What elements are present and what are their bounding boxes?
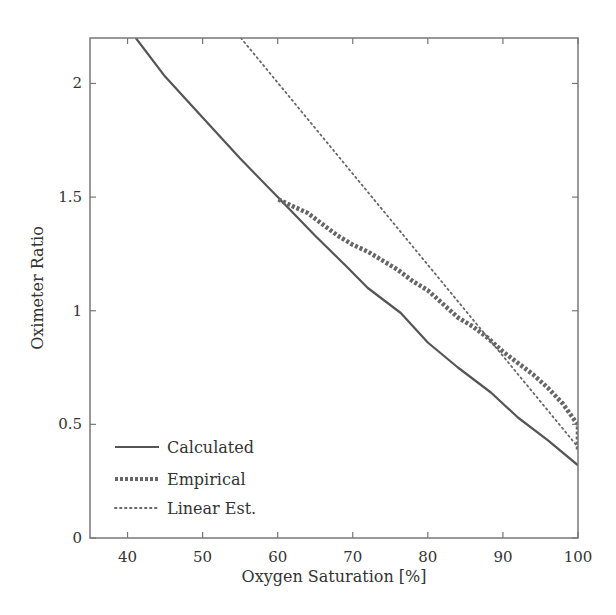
legend-label-linear: Linear Est. (167, 499, 256, 518)
y-tick-labels: 00.511.52 (58, 74, 82, 547)
plot-lines (136, 38, 578, 465)
x-tick-label: 80 (418, 548, 437, 566)
series-empirical (278, 199, 578, 449)
legend-label-calculated: Calculated (167, 438, 254, 457)
series-linear-est (241, 38, 578, 447)
chart: 405060708090100 00.511.52 Oxygen Saturat… (0, 0, 616, 615)
y-tick-label: 0 (72, 529, 82, 547)
x-tick-label: 40 (118, 548, 137, 566)
x-tick-label: 60 (268, 548, 287, 566)
y-tick-label: 1 (72, 302, 82, 320)
axis-ticks (90, 38, 578, 538)
legend-label-empirical: Empirical (167, 470, 246, 489)
x-tick-label: 90 (493, 548, 512, 566)
x-tick-label: 50 (193, 548, 212, 566)
y-tick-label: 1.5 (58, 188, 82, 206)
x-tick-label: 70 (343, 548, 362, 566)
plot-frame (90, 38, 578, 538)
legend: Calculated Empirical Linear Est. (115, 438, 256, 518)
y-axis-label: Oximeter Ratio (28, 226, 47, 350)
x-tick-labels: 405060708090100 (118, 548, 592, 566)
y-tick-label: 2 (72, 74, 82, 92)
y-tick-label: 0.5 (58, 415, 82, 433)
x-axis-label: Oxygen Saturation [%] (242, 567, 427, 586)
x-tick-label: 100 (564, 548, 593, 566)
series-calculated (136, 38, 578, 465)
